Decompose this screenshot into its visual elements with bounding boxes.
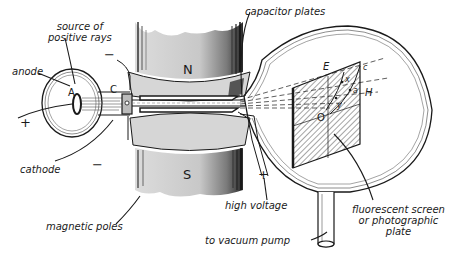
- minus-bottom: −: [92, 160, 103, 170]
- source-label-line2: positive rays: [48, 32, 112, 43]
- capacitor-plates-label: capacitor plates: [245, 6, 325, 17]
- curve-a: a: [353, 86, 358, 96]
- magnetic-poles-label: magnetic poles: [46, 221, 123, 232]
- cathode-letter: C: [110, 85, 117, 95]
- plus-high-voltage: +: [258, 170, 269, 180]
- south-pole: [130, 113, 250, 197]
- anode-letter: A: [68, 88, 75, 98]
- source-label: source of positive rays: [48, 21, 112, 43]
- anode-label: anode: [12, 66, 43, 77]
- screen-label-line2: or photographic: [352, 215, 445, 226]
- screen-label-line3: plate: [352, 226, 445, 237]
- screen-O: O: [317, 113, 325, 123]
- vacuum-pump-label: to vacuum pump: [205, 235, 290, 246]
- north-letter: N: [183, 65, 193, 75]
- positive-ray-apparatus-diagram: source of positive rays anode cathode ma…: [0, 0, 449, 256]
- screen-label-line1: fluorescent screen: [352, 204, 445, 215]
- screen-H: H: [365, 88, 373, 98]
- south-letter: S: [183, 170, 191, 180]
- screen-label: fluorescent screen or photographic plate: [352, 204, 445, 237]
- minus-top: −: [104, 50, 115, 60]
- screen-E: E: [323, 62, 329, 72]
- curve-x: x: [345, 75, 350, 85]
- curve-c: c: [363, 63, 367, 73]
- high-voltage-label: high voltage: [225, 200, 287, 211]
- plus-left: +: [20, 118, 31, 128]
- cathode-label: cathode: [20, 164, 61, 175]
- source-label-line1: source of: [48, 21, 112, 32]
- curve-y: y: [337, 101, 342, 111]
